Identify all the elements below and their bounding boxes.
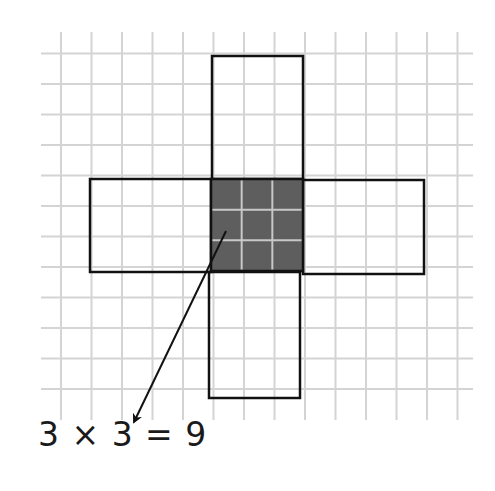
cross-left-arm bbox=[90, 179, 211, 272]
shaded-square-fill bbox=[211, 179, 303, 271]
cross-right-arm bbox=[303, 180, 424, 274]
shaded-center-square bbox=[211, 179, 303, 271]
area-equation: 3 × 3 = 9 bbox=[38, 418, 207, 451]
pointer-arrow bbox=[134, 231, 226, 422]
cross-top-arm bbox=[212, 56, 303, 179]
cross-bottom-arm bbox=[209, 272, 300, 398]
